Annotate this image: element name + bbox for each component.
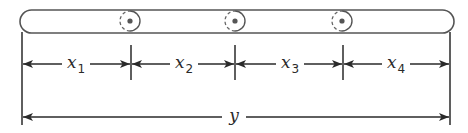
segment-label-subscript: 4 [397, 62, 405, 76]
segment-label-subscript: 1 [77, 62, 85, 76]
segment-label-x1: x1 [64, 53, 88, 73]
segment-label-variable: x [281, 52, 291, 72]
segment-label-subscript: 2 [185, 62, 193, 76]
segment-label-subscript: 3 [291, 62, 299, 76]
segment-label-variable: x [175, 52, 185, 72]
total-label-y: y [226, 106, 242, 124]
segment-label-variable: x [67, 52, 77, 72]
segment-label-x4: x4 [384, 53, 408, 73]
segment-label-x3: x3 [278, 53, 302, 73]
segment-label-variable: x [387, 52, 397, 72]
segment-label-x2: x2 [172, 53, 196, 73]
